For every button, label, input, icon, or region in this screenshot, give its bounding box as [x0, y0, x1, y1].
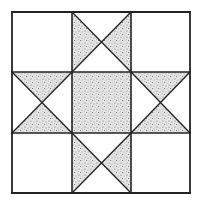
star-point-triangle — [102, 133, 132, 193]
star-point-triangle — [12, 72, 72, 103]
star-point-triangle — [102, 12, 132, 72]
ohio-star-quilt-block — [0, 0, 201, 206]
star-point-triangle — [72, 12, 102, 72]
star-point-triangle — [72, 133, 102, 193]
star-point-triangle — [12, 103, 72, 134]
shaded-regions — [12, 12, 190, 193]
star-point-triangle — [131, 72, 190, 103]
star-point-triangle — [131, 103, 190, 134]
center-square — [72, 72, 131, 133]
